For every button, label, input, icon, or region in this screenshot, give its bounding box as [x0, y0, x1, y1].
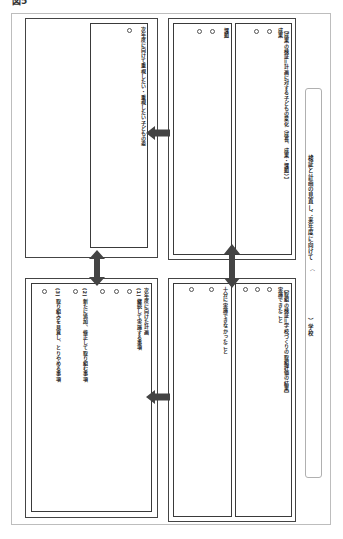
issues-box: [173, 23, 232, 255]
bullet-icon: [197, 29, 202, 34]
bullet-icon: [267, 287, 272, 292]
bullet-icon: [267, 29, 272, 34]
bullet-icon: [127, 289, 132, 294]
plan-section-discontinue: (3) 取り組みを見直し、とりやめる事項: [55, 288, 61, 382]
school-name-suffix: ）学校: [308, 318, 314, 337]
school-name-paren: （: [309, 266, 315, 271]
worksheet-title: 検証と計画の見直し：来年度に向けて: [308, 155, 314, 260]
not-implemented-heading: 十分に実施できなかったこと: [222, 287, 228, 355]
arrow-left-icon: [146, 126, 170, 140]
issues-heading: 課題: [223, 28, 229, 38]
achievements-subheading: 成果: [277, 28, 283, 38]
bullet-icon: [210, 29, 215, 34]
bullet-icon: [73, 289, 78, 294]
bullet-icon: [42, 289, 47, 294]
plan-section-continue: (1) 継続して実施する事項: [136, 288, 142, 351]
bullet-icon: [127, 28, 132, 33]
next-year-plan-heading: 次年度に向けた計画: [143, 288, 149, 335]
bullet-icon: [100, 289, 105, 294]
bullet-icon: [254, 29, 259, 34]
arrow-up-down-icon: [89, 250, 105, 286]
bullet-icon: [209, 287, 214, 292]
arrow-up-down-icon: [224, 244, 240, 288]
bullet-icon: [243, 287, 248, 292]
plan-section-add-modify: (2) 新たに追加、修正して取り組む事項: [82, 288, 88, 382]
bullet-icon: [114, 289, 119, 294]
bullet-icon: [255, 287, 260, 292]
title-bar: [305, 88, 322, 478]
achievements-heading: 【成果の検証＝計画に対する子どもの変化（成長、成果・課題）】: [283, 28, 289, 182]
figure-label: 図5: [12, 0, 27, 7]
arrow-left-icon: [146, 390, 170, 404]
implemented-subheading: 実施できたこと: [277, 287, 283, 323]
next-year-plan-box: [31, 283, 152, 512]
bullet-icon: [189, 287, 194, 292]
implemented-heading: 【取組の検証＝学校づくりの取組評価の結果】: [283, 287, 289, 396]
